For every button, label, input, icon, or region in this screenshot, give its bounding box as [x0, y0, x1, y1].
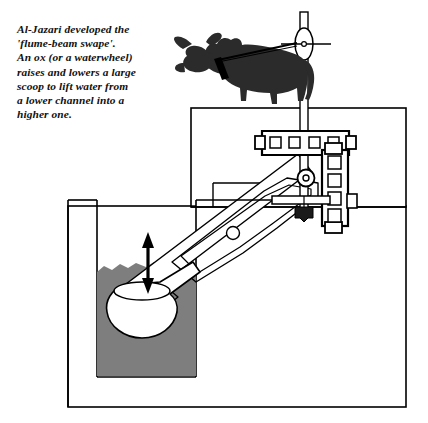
crossbeam-hole [270, 137, 281, 148]
swape-diagram [0, 0, 428, 423]
beam-bearing-icon [227, 227, 240, 240]
column-hole [328, 156, 341, 169]
figure-root: Al-Jazari developed the 'flume-beam swap… [0, 0, 428, 423]
column-hole [328, 174, 341, 187]
crossbeam-hole [309, 137, 320, 148]
column-hole [328, 209, 341, 222]
scoop-rim [114, 282, 170, 300]
crossbeam-hole [289, 137, 300, 148]
